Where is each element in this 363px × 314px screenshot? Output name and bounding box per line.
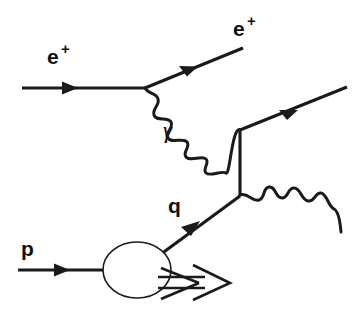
outgoing-positron-label-superscript: + xyxy=(247,12,256,29)
incoming-positron-label-superscript: + xyxy=(61,40,70,57)
incoming-positron-label-base: e xyxy=(47,45,59,68)
proton-label: p xyxy=(21,237,34,260)
feynman-diagram-svg: e + e + γ q p xyxy=(0,0,363,314)
outgoing-positron-label-base: e xyxy=(233,17,245,40)
quark-label: q xyxy=(168,194,181,217)
feynman-diagram-canvas: e + e + γ q p xyxy=(0,0,363,314)
proton-blob xyxy=(103,242,171,298)
photon-label: γ xyxy=(163,118,173,143)
